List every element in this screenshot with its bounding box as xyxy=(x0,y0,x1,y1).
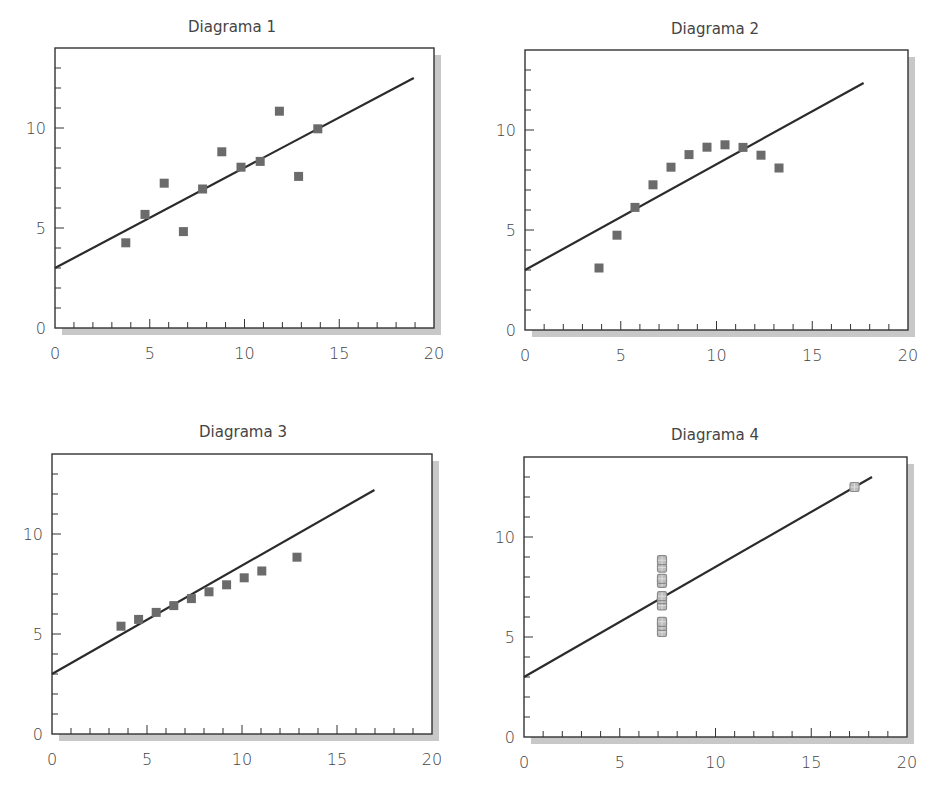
data-point xyxy=(217,147,226,156)
data-point xyxy=(240,573,249,582)
data-point xyxy=(237,163,246,172)
x-tick-label: 10 xyxy=(705,753,725,772)
scatter-panel-4: 051015200510 xyxy=(495,457,918,772)
data-point xyxy=(134,615,143,624)
y-tick-label: 5 xyxy=(505,628,515,647)
plot-frame xyxy=(524,457,907,737)
x-tick-label: 0 xyxy=(520,346,530,365)
plot-frame xyxy=(52,454,432,734)
data-point xyxy=(649,180,658,189)
data-point xyxy=(721,140,730,149)
data-point xyxy=(179,227,188,236)
data-point xyxy=(595,264,604,273)
data-point xyxy=(141,210,150,219)
plot-frame xyxy=(525,50,908,330)
y-tick-label: 0 xyxy=(506,321,516,340)
x-tick-label: 5 xyxy=(616,346,626,365)
x-tick-label: 20 xyxy=(424,344,444,363)
data-point xyxy=(293,553,302,562)
data-point xyxy=(294,172,303,181)
plot-frame xyxy=(55,48,434,328)
data-point xyxy=(613,231,622,240)
data-point xyxy=(152,608,161,617)
y-tick-label: 0 xyxy=(33,725,43,744)
data-point xyxy=(205,587,214,596)
x-tick-label: 20 xyxy=(422,750,442,769)
x-tick-label: 10 xyxy=(232,750,252,769)
data-point xyxy=(739,143,748,152)
data-point xyxy=(257,567,266,576)
x-tick-label: 0 xyxy=(519,753,529,772)
x-tick-label: 0 xyxy=(50,344,60,363)
x-tick-label: 15 xyxy=(329,344,349,363)
y-tick-label: 0 xyxy=(505,728,515,747)
data-point xyxy=(169,601,178,610)
data-point xyxy=(187,594,196,603)
y-tick-label: 10 xyxy=(495,528,515,547)
data-point xyxy=(685,150,694,159)
x-tick-label: 15 xyxy=(801,753,821,772)
data-point xyxy=(667,163,676,172)
x-tick-label: 5 xyxy=(615,753,625,772)
scatter-panel-3: 051015200510 xyxy=(23,454,443,769)
data-point xyxy=(313,124,322,133)
x-tick-label: 15 xyxy=(802,346,822,365)
data-point xyxy=(160,179,169,188)
x-tick-label: 10 xyxy=(706,346,726,365)
x-tick-label: 10 xyxy=(234,344,254,363)
data-point xyxy=(775,164,784,173)
data-point xyxy=(757,151,766,160)
x-tick-label: 5 xyxy=(142,750,152,769)
scatter-panel-1: 051015200510 xyxy=(26,48,445,363)
y-tick-label: 5 xyxy=(506,221,516,240)
y-tick-label: 10 xyxy=(23,525,43,544)
data-point xyxy=(631,203,640,212)
x-tick-label: 5 xyxy=(145,344,155,363)
data-point xyxy=(275,107,284,116)
x-tick-label: 15 xyxy=(327,750,347,769)
scatter-panel-2: 051015200510 xyxy=(496,50,919,365)
y-tick-label: 0 xyxy=(36,319,46,338)
data-point xyxy=(256,157,265,166)
x-tick-label: 20 xyxy=(898,346,918,365)
data-point xyxy=(121,238,130,247)
data-point xyxy=(703,143,712,152)
y-tick-label: 10 xyxy=(26,119,46,138)
y-tick-label: 5 xyxy=(36,219,46,238)
data-point xyxy=(222,580,231,589)
data-point xyxy=(117,622,126,631)
x-tick-label: 20 xyxy=(897,753,917,772)
y-tick-label: 10 xyxy=(496,121,516,140)
x-tick-label: 0 xyxy=(47,750,57,769)
y-tick-label: 5 xyxy=(33,625,43,644)
data-point xyxy=(198,185,207,194)
plots-canvas: 0510152005100510152005100510152005100510… xyxy=(0,0,943,802)
